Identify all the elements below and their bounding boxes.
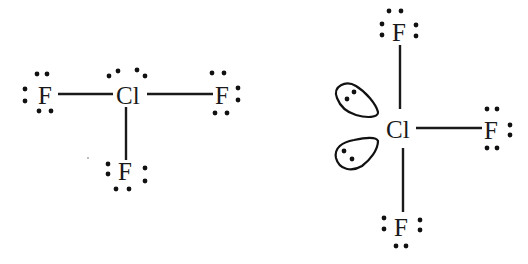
clf3-lewis-diagram: F Cl F F [0, 0, 528, 264]
lone-pairs-cl-left [107, 68, 148, 79]
lone-pair-lobe-lower [336, 138, 378, 169]
atom-f-bottom: F [118, 158, 132, 185]
lone-pair-lobe-upper [336, 84, 378, 117]
atom-cl-center-2: Cl [386, 116, 410, 143]
atom-f-right: F [215, 82, 229, 109]
right-structure: F Cl F F [336, 9, 513, 249]
atom-f-left: F [38, 82, 52, 109]
atom-f-top: F [392, 19, 406, 46]
speck [87, 157, 89, 159]
atom-cl-center: Cl [116, 82, 140, 109]
atom-f-right-2: F [484, 117, 498, 144]
atom-f-bottom-2: F [394, 214, 408, 241]
left-structure: F Cl F F [23, 68, 241, 192]
